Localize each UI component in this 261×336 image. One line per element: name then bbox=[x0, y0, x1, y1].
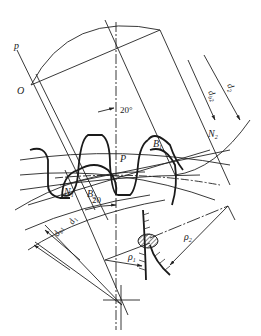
radial-line-3 bbox=[65, 170, 128, 315]
label-d1: d1 bbox=[66, 215, 79, 227]
label-d2: d2 bbox=[224, 82, 237, 93]
rho2-tick bbox=[228, 206, 235, 220]
line-of-action bbox=[60, 150, 230, 185]
rho2-line-b bbox=[170, 206, 228, 265]
label-angle-bottom: 20 bbox=[92, 195, 102, 205]
label-origin: O bbox=[17, 85, 24, 96]
label-rho1: ρ1 bbox=[127, 251, 136, 263]
gear-tooth-center bbox=[62, 135, 148, 196]
label-p: p bbox=[13, 40, 19, 51]
label-N2: N2 bbox=[207, 128, 218, 140]
label-B1: B1 bbox=[153, 138, 162, 150]
d2-dim-line bbox=[204, 55, 240, 120]
diagram-canvas: p O 20° P B1 B2 N1 N2 20 db2 d2 d1 db1 ρ… bbox=[0, 0, 261, 336]
angle-arrow-top bbox=[98, 108, 114, 112]
label-angle-top: 20° bbox=[120, 105, 133, 115]
contact-surface-2 bbox=[150, 245, 170, 275]
rho1-line-b bbox=[105, 260, 142, 266]
label-db1: db1 bbox=[51, 224, 66, 239]
label-N1: N1 bbox=[63, 186, 74, 198]
base-arc-1 bbox=[20, 175, 200, 190]
label-db2: db2 bbox=[205, 89, 219, 103]
gear-mesh-diagram: p O 20° P B1 B2 N1 N2 20 db2 d2 d1 db1 ρ… bbox=[0, 0, 261, 336]
rho2-line-a bbox=[150, 206, 228, 238]
outer-arc bbox=[31, 26, 160, 85]
pitch-arc-2 bbox=[20, 173, 215, 200]
label-pitch-point: P bbox=[119, 153, 126, 164]
contact-ellipse bbox=[138, 234, 158, 248]
db1-dim-arrow bbox=[34, 245, 70, 270]
radial-line-2 bbox=[35, 242, 122, 305]
label-rho2: ρ2 bbox=[183, 231, 192, 243]
